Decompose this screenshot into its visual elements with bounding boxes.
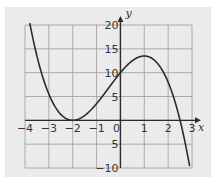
- x-axis-label: x: [198, 121, 205, 134]
- x-tick-label: −3: [41, 122, 57, 135]
- cubic-function-chart: −4−3−2−1012320151055−10 x y: [0, 0, 216, 184]
- y-tick-label: 15: [104, 43, 118, 56]
- y-tick-label: 5: [111, 138, 118, 151]
- y-tick-label: −10: [95, 162, 118, 175]
- x-tick-label: −4: [17, 122, 33, 135]
- tick-labels: −4−3−2−1012320151055−10: [17, 19, 196, 175]
- x-tick-label: 3: [189, 122, 196, 135]
- x-tick-label: 0: [113, 122, 120, 135]
- x-tick-label: 1: [141, 122, 148, 135]
- x-tick-label: −2: [65, 122, 81, 135]
- y-tick-label: 20: [104, 19, 118, 32]
- y-axis-label: y: [124, 7, 132, 20]
- y-tick-label: 5: [111, 91, 118, 104]
- x-tick-label: 2: [165, 122, 172, 135]
- x-tick-label: −1: [88, 122, 104, 135]
